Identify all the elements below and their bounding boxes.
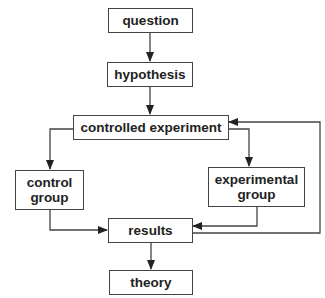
node-experimental-group-label-2: group (237, 187, 275, 202)
node-hypothesis-label: hypothesis (114, 67, 185, 82)
node-control-group-label-1: control (27, 175, 73, 190)
edge-experimental-results (193, 207, 257, 226)
edge-control-results (50, 210, 107, 230)
node-question-label: question (122, 13, 178, 28)
node-controlled-experiment: controlled experiment (73, 115, 229, 140)
node-control-group: control group (15, 170, 84, 210)
node-control-group-label-2: group (30, 190, 68, 205)
edge-experiment-control (50, 129, 73, 169)
node-experimental-group: experimental group (208, 167, 305, 207)
node-results: results (108, 218, 193, 243)
node-controlled-experiment-label: controlled experiment (80, 120, 221, 135)
edge-experiment-experimental (228, 129, 249, 166)
node-theory: theory (109, 270, 193, 295)
node-hypothesis: hypothesis (107, 62, 193, 87)
node-theory-label: theory (130, 275, 171, 290)
diagram-edges (0, 0, 325, 298)
node-results-label: results (128, 223, 172, 238)
node-question: question (108, 8, 193, 33)
node-experimental-group-label-1: experimental (215, 172, 298, 187)
